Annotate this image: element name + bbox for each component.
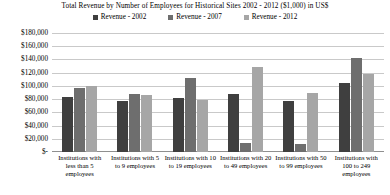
bar (62, 97, 73, 152)
y-axis-tick-label: $40,000 (25, 122, 48, 130)
x-axis-tick-label: Institutions with 5 to 9 employees (107, 154, 162, 194)
y-axis-tick-label: $100,000 (21, 82, 48, 90)
legend-label-2002: Revenue - 2002 (101, 13, 147, 22)
legend-swatch-2012 (244, 15, 249, 20)
bar-chart: Total Revenue by Number of Employees for… (0, 0, 390, 195)
bar-group (273, 33, 328, 152)
bar (283, 101, 294, 152)
x-axis-labels: Institutions with less than 5 employeesI… (52, 154, 384, 194)
x-axis-tick-label: Institutions with 10 to 19 employees (163, 154, 218, 194)
bar (86, 86, 97, 152)
y-axis-tick-label: $80,000 (25, 95, 48, 103)
bar (339, 83, 350, 152)
bar (252, 67, 263, 152)
bar (173, 98, 184, 152)
bar (129, 94, 140, 152)
bar-group (52, 33, 107, 152)
legend-label-2012: Revenue - 2012 (252, 13, 298, 22)
x-axis-tick-label: Institutions with less than 5 employees (52, 154, 107, 194)
y-axis-tick-label: $160,000 (21, 42, 48, 50)
y-axis-tick-label: $- (42, 148, 48, 156)
legend-swatch-2007 (168, 15, 173, 20)
legend-item-revenue-2002: Revenue - 2002 (93, 13, 147, 22)
legend-swatch-2002 (93, 15, 98, 20)
x-axis-tick-label: Institutions with 100 to 249 employees (329, 154, 384, 194)
bar (228, 94, 239, 152)
y-axis-tick-label: $60,000 (25, 108, 48, 116)
y-axis-tick-label: $120,000 (21, 69, 48, 77)
x-axis-tick-label: Institutions with 20 to 49 employees (218, 154, 273, 194)
chart-title: Total Revenue by Number of Employees for… (0, 2, 390, 11)
plot-area (52, 33, 384, 152)
bar (117, 101, 128, 152)
bar-group (218, 33, 273, 152)
bar (74, 88, 85, 152)
y-axis-tick-label: $140,000 (21, 55, 48, 63)
y-axis-tick-label: $180,000 (21, 29, 48, 37)
bar-group (329, 33, 384, 152)
bar (295, 144, 306, 152)
legend-item-revenue-2012: Revenue - 2012 (244, 13, 298, 22)
bar (307, 93, 318, 152)
bar-groups (52, 33, 384, 152)
chart-legend: Revenue - 2002 Revenue - 2007 Revenue - … (0, 13, 390, 22)
bar (197, 100, 208, 152)
legend-item-revenue-2007: Revenue - 2007 (168, 13, 222, 22)
x-axis-tick-label: Institutions with 50 to 99 employees (273, 154, 328, 194)
bar (240, 143, 251, 152)
legend-label-2007: Revenue - 2007 (176, 13, 222, 22)
y-axis: $180,000$160,000$140,000$120,000$100,000… (0, 33, 50, 152)
bar-group (163, 33, 218, 152)
bar (351, 58, 362, 152)
bar (363, 74, 374, 152)
bar (185, 78, 196, 152)
bar-group (107, 33, 162, 152)
y-axis-tick-label: $20,000 (25, 135, 48, 143)
bar (141, 95, 152, 152)
